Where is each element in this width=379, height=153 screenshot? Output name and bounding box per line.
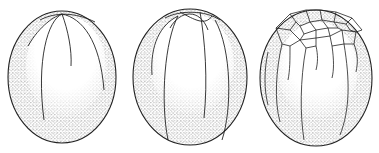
embryo-stage-2	[133, 9, 247, 145]
embryo-stage-1	[8, 11, 116, 143]
embryo-stage-3	[260, 10, 372, 146]
embryo-figure	[0, 0, 379, 153]
